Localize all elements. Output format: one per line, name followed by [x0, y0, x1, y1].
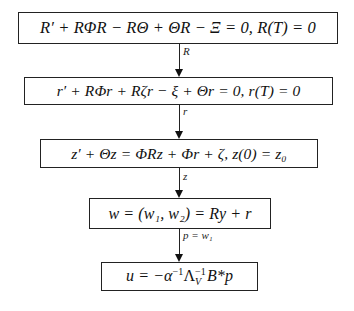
adjoint-r-equation: r′ + RΦr + Rζr − ξ + Θr = 0, r(T) = 0 [57, 82, 301, 100]
edge-label-p: p = w₁ [183, 229, 213, 241]
adjoint-r-equation-box: r′ + RΦr + Rζr − ξ + Θr = 0, r(T) = 0 [24, 77, 333, 105]
edge-arrow-R [179, 44, 180, 70]
control-u-sup1: −1 [173, 266, 184, 277]
w-definition: w = (w₁, w₂) = Ry + r [108, 205, 251, 223]
arrowhead-icon [175, 254, 183, 262]
control-u-equation: u = −α−1Λ−1VB*p [126, 266, 233, 288]
w-definition-box: w = (w₁, w₂) = Ry + r [89, 198, 271, 229]
arrowhead-icon [175, 69, 183, 77]
edge-arrow-p [179, 229, 180, 255]
edge-arrow-r [179, 105, 180, 132]
state-z-equation-box: z′ + Θz = ΦRz + Φr + ζ, z(0) = z₀ [40, 139, 318, 168]
control-u-lhs: u = −α [126, 267, 173, 284]
riccati-equation: R′ + RΦR − RΘ + ΘR − Ξ = 0, R(T) = 0 [40, 18, 316, 38]
edge-arrow-z [179, 168, 180, 191]
riccati-equation-box: R′ + RΦR − RΘ + ΘR − Ξ = 0, R(T) = 0 [18, 12, 338, 44]
control-u-lambda: Λ [183, 267, 195, 284]
arrowhead-icon [175, 190, 183, 198]
control-u-sub2: V [195, 277, 206, 287]
edge-label-z: z [183, 170, 187, 182]
state-z-equation: z′ + Θz = ΦRz + Φr + ζ, z(0) = z₀ [71, 145, 287, 163]
edge-label-r: r [183, 105, 187, 117]
arrowhead-icon [175, 131, 183, 139]
control-u-tail: B*p [207, 267, 233, 284]
edge-label-R: R [183, 45, 190, 57]
control-u-equation-box: u = −α−1Λ−1VB*p [101, 262, 258, 291]
